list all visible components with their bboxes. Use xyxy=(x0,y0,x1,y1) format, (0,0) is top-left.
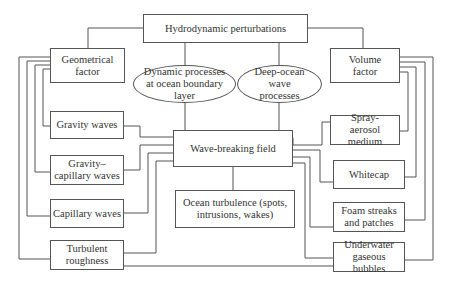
whitecap-box: Whitecap xyxy=(333,160,405,189)
gravity-capillary-waves-box: Gravity–capillary waves xyxy=(50,155,124,185)
spray-aerosol-medium-box: Spray-aerosol medium xyxy=(330,115,400,145)
deep-ocean-wave-processes-ellipse: Deep-ocean wave processes xyxy=(237,65,322,103)
wave-breaking-field-box: Wave-breaking field xyxy=(173,130,293,167)
hydrodynamic-perturbations-box: Hydrodynamic perturbations xyxy=(143,14,308,43)
foam-streaks-and-patches-box: Foam streaks and patches xyxy=(333,202,405,232)
capillary-waves-box: Capillary waves xyxy=(50,199,124,228)
geometrical-factor-box: Geometrical factor xyxy=(50,48,125,83)
volume-factor-box: Volume factor xyxy=(330,48,400,83)
turbulent-roughness-box: Turbulent roughness xyxy=(50,240,124,270)
ocean-turbulence-box: Ocean turbulence (spots, intrusions, wak… xyxy=(175,190,295,228)
dynamic-processes-ellipse: Dynamic processes at ocean boundary laye… xyxy=(133,65,236,103)
gravity-waves-box: Gravity waves xyxy=(50,111,124,139)
underwater-gaseous-bubbles-box: Underwater gaseous bubbles xyxy=(333,242,405,272)
